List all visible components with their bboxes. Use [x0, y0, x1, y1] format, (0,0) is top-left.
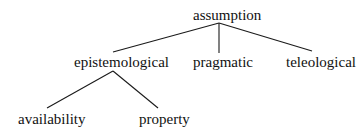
edge-epistemological-availability: [47, 71, 113, 108]
node-teleological: teleological: [286, 55, 356, 70]
edge-assumption-teleological: [219, 23, 312, 51]
node-epistemological: epistemological: [74, 55, 169, 70]
node-availability: availability: [18, 112, 85, 127]
edge-assumption-epistemological: [113, 23, 219, 52]
node-pragmatic: pragmatic: [193, 55, 253, 70]
node-assumption: assumption: [193, 8, 261, 23]
edge-epistemological-property: [113, 71, 158, 108]
node-property: property: [139, 112, 190, 127]
